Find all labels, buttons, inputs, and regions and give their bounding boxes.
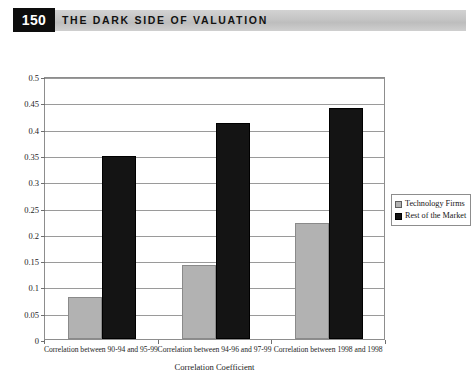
bar-technology-firms — [68, 297, 102, 339]
chart-legend: Technology Firms Rest of the Market — [391, 194, 471, 226]
running-head-title: The Dark Side of Valuation — [62, 11, 268, 30]
bar-rest-of-the-market — [216, 123, 250, 339]
x-axis-category-labels: Correlation between 90-94 and 95-99Corre… — [44, 346, 385, 360]
y-gridline — [45, 104, 384, 105]
bar-chart-figure: 00.050.10.150.20.250.30.350.40.450.5 Cor… — [0, 44, 474, 383]
x-category-label: Correlation between 1998 and 1998 — [274, 346, 383, 354]
bar-technology-firms — [295, 223, 329, 339]
plot-area: 00.050.10.150.20.250.30.350.40.450.5 — [44, 77, 385, 340]
page-number: 150 — [13, 8, 55, 32]
y-tick-label: 0.5 — [28, 74, 39, 83]
y-tick-mark — [41, 78, 45, 79]
x-tick-mark — [44, 340, 45, 344]
legend-item: Technology Firms — [395, 198, 466, 210]
legend-swatch-technology-firms — [395, 201, 402, 208]
bar-rest-of-the-market — [102, 156, 136, 339]
y-tick-label: 0.1 — [28, 284, 39, 293]
y-tick-mark — [41, 262, 45, 263]
x-tick-mark — [271, 340, 272, 344]
y-tick-mark — [41, 236, 45, 237]
x-category-label: Correlation between 90-94 and 95-99 — [44, 346, 158, 354]
bar-technology-firms — [182, 265, 216, 339]
x-tick-mark — [158, 340, 159, 344]
y-tick-label: 0.05 — [24, 310, 39, 319]
y-tick-mark — [41, 131, 45, 132]
y-tick-label: 0.25 — [24, 205, 39, 214]
y-tick-label: 0.4 — [28, 126, 39, 135]
y-tick-mark — [41, 157, 45, 158]
x-category-label: Correlation between 94-96 and 97-99 — [158, 346, 272, 354]
legend-swatch-rest-of-market — [395, 213, 402, 220]
y-tick-label: 0.15 — [24, 258, 39, 267]
x-axis-title: Correlation Coefficient — [44, 362, 385, 372]
legend-label: Rest of the Market — [405, 212, 466, 220]
y-gridline — [45, 78, 384, 79]
y-tick-mark — [41, 210, 45, 211]
y-tick-label: 0.3 — [28, 179, 39, 188]
y-tick-label: 0 — [35, 337, 39, 346]
page-header: 150 The Dark Side of Valuation — [0, 0, 474, 44]
legend-label: Technology Firms — [405, 200, 465, 208]
y-tick-mark — [41, 288, 45, 289]
legend-item: Rest of the Market — [395, 210, 466, 222]
bar-rest-of-the-market — [329, 108, 363, 339]
x-tick-mark — [385, 340, 386, 344]
y-tick-mark — [41, 183, 45, 184]
y-tick-label: 0.45 — [24, 100, 39, 109]
y-tick-label: 0.35 — [24, 153, 39, 162]
y-tick-mark — [41, 104, 45, 105]
y-tick-mark — [41, 315, 45, 316]
y-tick-label: 0.2 — [28, 232, 39, 241]
page-number-box: 150 — [13, 8, 55, 32]
